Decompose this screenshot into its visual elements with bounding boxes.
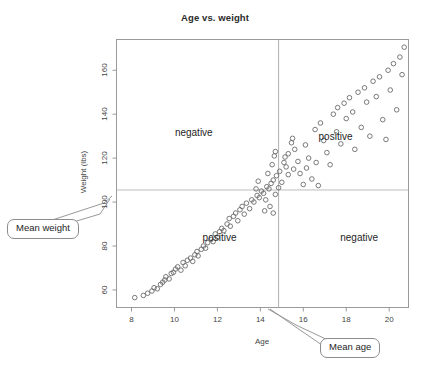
x-tick-label: 18 xyxy=(342,315,351,324)
quadrant-bottom-right: negative xyxy=(340,232,378,243)
quadrant-top-right: positive xyxy=(319,131,353,142)
x-tick-label: 8 xyxy=(129,315,133,324)
quadrant-top-left: negative xyxy=(175,126,213,137)
plot-frame xyxy=(117,40,409,308)
scatter-chart: Age vs. weight 8101214161820608010012014… xyxy=(0,0,430,378)
y-tick-label: 120 xyxy=(99,151,108,164)
mean-age-callout: Mean age xyxy=(320,338,380,358)
mean-weight-callout: Mean weight xyxy=(7,219,79,239)
quadrant-bottom-left: positive xyxy=(203,232,237,243)
x-tick-label: 16 xyxy=(299,315,308,324)
y-tick-label: 140 xyxy=(99,108,108,121)
x-tick-label: 14 xyxy=(256,315,265,324)
x-tick-label: 10 xyxy=(170,315,179,324)
reference-lines xyxy=(117,40,409,308)
callout-leader-lines xyxy=(40,196,330,345)
x-tick-label: 12 xyxy=(213,315,222,324)
axis-tick-marks xyxy=(113,70,390,311)
y-tick-label: 60 xyxy=(99,285,108,294)
y-tick-label: 80 xyxy=(99,242,108,251)
y-axis-title: Weight (lbs) xyxy=(79,151,88,194)
x-axis-title: Age xyxy=(255,337,269,346)
data-points xyxy=(132,45,406,300)
x-tick-label: 20 xyxy=(385,315,394,324)
y-tick-label: 100 xyxy=(99,195,108,208)
y-tick-label: 160 xyxy=(99,64,108,77)
